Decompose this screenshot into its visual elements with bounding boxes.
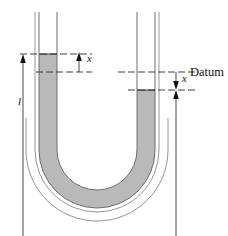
- x-label-left: x: [86, 53, 92, 64]
- manometer-figure: Datum x x l: [0, 0, 228, 236]
- dimension-x-right-arrowhead-up-lower: [173, 90, 179, 99]
- dimension-x-right: [173, 72, 179, 236]
- dimension-x-left-arrowhead-up: [76, 52, 82, 61]
- fluid-bend: [39, 150, 155, 208]
- dimension-x-left: [76, 52, 82, 72]
- dimension-ell: [20, 54, 26, 236]
- fluid-column-left: [39, 54, 57, 154]
- fluid-column-right: [137, 90, 155, 154]
- datum-label: Datum: [190, 65, 224, 79]
- inner-wall-left: [57, 12, 137, 190]
- dimension-ell-arrowhead-down: [20, 54, 26, 63]
- fluid-region: [39, 54, 155, 208]
- dimension-x-right-arrowhead-down: [173, 81, 179, 90]
- x-label-right: x: [181, 73, 187, 84]
- ell-label: l: [18, 95, 21, 107]
- manometer-diagram: Datum x x l: [0, 0, 228, 236]
